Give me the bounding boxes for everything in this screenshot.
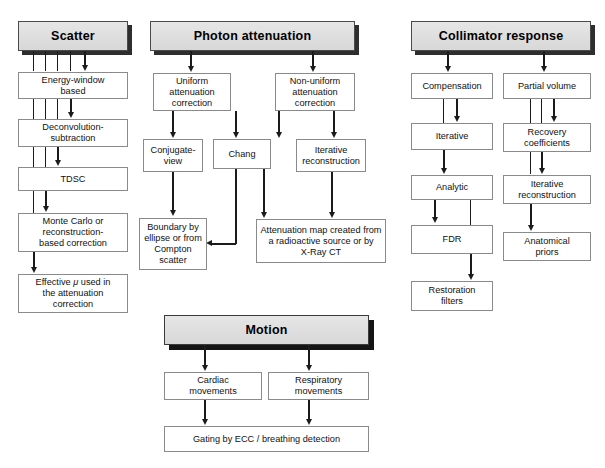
- node-conjugate-view: Conjugate- view: [143, 139, 203, 172]
- connector-analytic-to-fdr: [434, 200, 436, 218]
- node-cardiac-movements: Cardiac movements: [164, 372, 262, 400]
- header-motion: Motion: [164, 315, 369, 345]
- connector-scatter-pass-2a: [33, 147, 34, 167]
- effective-mu-text: Effective μ used in the attenuation corr…: [36, 277, 111, 310]
- connector-scatter-pass-1a: [33, 99, 34, 119]
- connector-chang-elbow-horizontal: [212, 243, 236, 245]
- node-iterative-reconstruction-collimator: Iterative reconstruction: [503, 175, 591, 204]
- connector-scatter-pass-1c: [57, 99, 58, 119]
- node-restoration-filters: Restoration filters: [411, 281, 493, 311]
- connector-uniform-to-conjugate-view: [172, 111, 174, 133]
- node-iterative: Iterative: [411, 123, 493, 150]
- connector-deconvolution-to-tdsc: [57, 147, 59, 161]
- arrow-iterative-to-analytic: [441, 168, 447, 174]
- connector-scatter-pass-1b: [45, 99, 46, 119]
- arrow-iterative-reconstruction-to-attenuation-map: [329, 212, 335, 218]
- connector-partial-volume-pass-1: [530, 99, 531, 123]
- connector-partial-volume-pass-2: [541, 99, 542, 123]
- arrow-compensation-to-iterative: [454, 116, 460, 122]
- node-iterative-reconstruction-photon: Iterative reconstruction: [296, 139, 366, 172]
- node-chang: Chang: [213, 139, 271, 169]
- arrow-motion-to-cardiac-movements: [202, 365, 208, 371]
- connector-scatter-trunk-1: [33, 51, 34, 71]
- connector-scatter-trunk-3: [57, 51, 58, 71]
- connector-iterative-reconstruction-to-anatomical-priors: [530, 204, 532, 226]
- connector-tdsc-to-monte-carlo: [45, 191, 47, 207]
- node-uniform-attenuation-correction: Uniform attenuation correction: [153, 73, 231, 111]
- arrow-photon-to-uniform: [188, 66, 194, 72]
- connector-recovery-to-iterative-reconstruction: [541, 152, 543, 169]
- node-tdsc: TDSC: [18, 167, 128, 191]
- connector-scatter-pass-3a: [33, 191, 34, 213]
- connector-collimator-to-partial-volume: [543, 51, 545, 67]
- arrow-energy-window-to-deconvolution: [68, 112, 74, 118]
- connector-conjugate-view-to-boundary: [172, 172, 174, 211]
- arrow-analytic-to-fdr: [432, 217, 438, 223]
- connector-compensation-to-iterative: [456, 99, 458, 117]
- node-deconvolution-subtraction: Deconvolution- subtraction: [18, 119, 128, 147]
- arrow-photon-to-non-uniform: [310, 66, 316, 72]
- arrow-deconvolution-to-tdsc: [55, 160, 61, 166]
- connector-chang-elbow-vertical: [235, 169, 237, 244]
- arrow-non-uniform-to-iterative-reconstruction: [331, 132, 337, 138]
- node-boundary-by-ellipse-or-from-compton-scatter: Boundary by ellipse or from Compton scat…: [139, 218, 207, 270]
- arrow-iterative-reconstruction-to-anatomical-priors: [528, 225, 534, 231]
- effective-mu-prefix: Effective: [36, 277, 74, 287]
- arrow-respiratory-to-gating: [306, 419, 312, 425]
- node-compensation: Compensation: [411, 73, 493, 99]
- arrow-chang-to-attenuation-map: [261, 212, 267, 218]
- arrow-uniform-to-chang: [233, 132, 239, 138]
- header-scatter: Scatter: [18, 21, 128, 51]
- node-partial-volume: Partial volume: [503, 73, 591, 99]
- arrow-collimator-to-partial-volume: [541, 66, 547, 72]
- arrow-fdr-to-restoration-filters: [468, 274, 474, 280]
- connector-energy-window-to-deconvolution: [70, 99, 72, 113]
- arrow-scatter-to-energy-window: [82, 65, 88, 71]
- connector-fdr-to-restoration-filters: [470, 254, 472, 275]
- arrow-collimator-to-compensation: [445, 66, 451, 72]
- connector-scatter-trunk-2: [45, 51, 46, 71]
- flowchart-canvas: Scatter Energy-window based Deconvolutio…: [0, 0, 605, 468]
- arrow-tdsc-to-monte-carlo: [43, 206, 49, 212]
- connector-recovery-pass-1: [530, 152, 531, 174]
- connector-compensation-pass-1: [443, 99, 444, 123]
- connector-iterative-to-analytic: [443, 150, 445, 169]
- header-photon-attenuation: Photon attenuation: [150, 21, 355, 51]
- connector-non-uniform-to-iterative-reconstruction: [333, 111, 335, 133]
- node-analytic: Analytic: [411, 175, 493, 200]
- connector-chang-to-attenuation-map: [263, 169, 265, 213]
- arrow-monte-carlo-to-effective-mu: [31, 267, 37, 273]
- node-recovery-coefficients: Recovery coefficients: [503, 123, 591, 152]
- connector-analytic-pass-through: [470, 200, 471, 225]
- arrow-recovery-to-iterative-reconstruction: [539, 168, 545, 174]
- connector-photon-to-non-uniform: [312, 51, 314, 67]
- arrow-partial-volume-to-recovery-coefficients: [551, 116, 557, 122]
- connector-monte-carlo-to-effective-mu: [33, 252, 35, 268]
- connector-partial-volume-to-recovery-coefficients: [553, 99, 555, 117]
- connector-motion-to-cardiac-movements: [204, 345, 206, 366]
- node-fdr: FDR: [411, 225, 493, 254]
- node-effective-mu-used-in-the-attenuation-correction: Effective μ used in the attenuation corr…: [18, 274, 128, 313]
- connector-scatter-pass-2b: [45, 147, 46, 167]
- arrow-motion-to-respiratory-movements: [306, 365, 312, 371]
- connector-respiratory-to-gating: [308, 400, 310, 420]
- connector-uniform-to-chang: [235, 111, 237, 133]
- connector-cardiac-to-gating: [204, 400, 206, 420]
- connector-photon-to-uniform: [190, 51, 192, 67]
- connector-non-uniform-to-chang: [278, 111, 280, 133]
- connector-collimator-to-compensation: [447, 51, 449, 67]
- node-anatomical-priors: Anatomical priors: [503, 232, 591, 261]
- arrow-cardiac-to-gating: [202, 419, 208, 425]
- node-gating-by-ecc-breathing-detection: Gating by ECC / breathing detection: [164, 426, 369, 452]
- node-non-uniform-attenuation-correction: Non-uniform attenuation correction: [275, 73, 355, 111]
- header-collimator-response: Collimator response: [411, 21, 591, 51]
- arrow-uniform-to-conjugate-view: [170, 132, 176, 138]
- connector-scatter-trunk-4: [70, 51, 71, 71]
- node-respiratory-movements: Respiratory movements: [268, 372, 369, 400]
- connector-iterative-reconstruction-to-attenuation-map: [331, 172, 333, 213]
- node-attenuation-map-created-from-a-radioactive-source-or-by-x-ray-ct: Attenuation map created from a radioacti…: [256, 219, 386, 263]
- node-energy-window-based: Energy-window based: [18, 72, 128, 99]
- arrow-conjugate-view-to-boundary: [170, 210, 176, 216]
- connector-scatter-to-energy-window: [84, 51, 86, 66]
- node-monte-carlo-or-reconstruction-based-correction: Monte Carlo or reconstruction- based cor…: [18, 213, 128, 252]
